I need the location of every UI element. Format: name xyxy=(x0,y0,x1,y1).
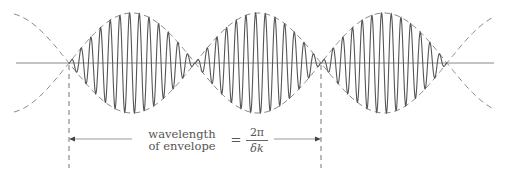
fraction: 2π δk xyxy=(244,126,270,155)
arrowhead-left-icon xyxy=(69,137,75,142)
fraction-numerator: 2π xyxy=(244,126,270,139)
envelope-wavelength-label: wavelength of envelope xyxy=(134,128,230,152)
fraction-bar xyxy=(246,140,268,141)
arrowhead-right-icon xyxy=(315,137,321,142)
fraction-denominator: δk xyxy=(244,142,270,155)
label-line-2: of envelope xyxy=(134,140,230,152)
equals-sign: = xyxy=(228,134,244,146)
